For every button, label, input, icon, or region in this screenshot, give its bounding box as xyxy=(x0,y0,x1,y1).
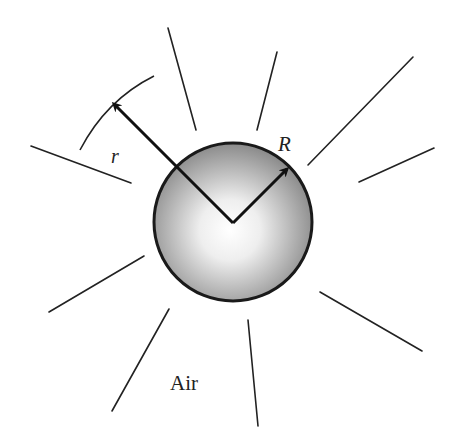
radiation-ray xyxy=(49,256,144,312)
radiation-ray xyxy=(320,292,422,351)
label-r: r xyxy=(111,145,119,167)
label-R: R xyxy=(277,132,291,156)
radiation-ray xyxy=(257,52,277,130)
radiation-sphere-diagram: r R Air xyxy=(0,0,452,445)
radiation-ray xyxy=(168,28,196,130)
radius-r-arc xyxy=(80,76,154,150)
radiation-ray xyxy=(359,148,434,182)
radiation-ray xyxy=(112,309,169,411)
radiation-ray xyxy=(308,57,413,165)
label-air: Air xyxy=(170,371,198,395)
radiation-ray xyxy=(248,320,258,426)
